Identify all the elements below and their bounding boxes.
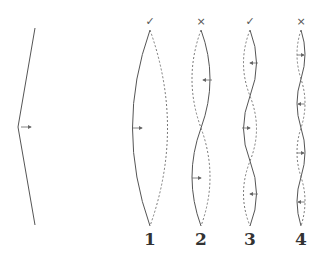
standing-wave-modes-diagram: ✓ × ✓ × 1 2 3 4 (0, 0, 323, 256)
mode-4-shape (297, 30, 305, 226)
mode-label-2: 2 (195, 231, 207, 248)
mode-label-1: 1 (144, 231, 156, 248)
check-icon: ✓ (245, 16, 254, 27)
mode-3-shape (242, 30, 258, 226)
cross-icon: × (196, 16, 205, 27)
mode-label-3: 3 (244, 231, 256, 248)
mode-label-4: 4 (295, 231, 307, 248)
diagram-canvas (0, 0, 323, 256)
cross-icon: × (296, 16, 305, 27)
check-icon: ✓ (145, 16, 154, 27)
mode-1-shape (132, 30, 168, 226)
mode-2-shape (192, 30, 212, 226)
plucked-string (18, 28, 35, 225)
